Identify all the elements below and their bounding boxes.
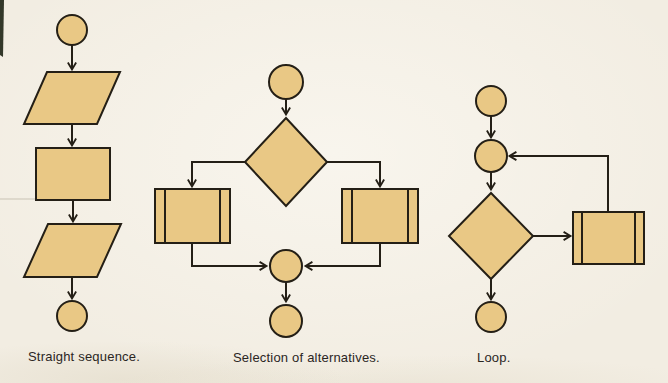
predefined-process-box	[573, 212, 644, 264]
terminal-circle-start	[476, 86, 506, 116]
predefined-process-box-right	[342, 189, 418, 243]
merge-arrow-left	[192, 243, 266, 266]
figure-caption: Straight sequence.	[28, 349, 140, 364]
flowchart-selection-of-alternatives: Selection of alternatives.	[155, 65, 418, 365]
scanned-figure-page: Straight sequence.	[0, 0, 668, 383]
decision-diamond	[449, 193, 533, 279]
predefined-process-rect	[573, 212, 644, 264]
input-output-parallelogram	[24, 224, 121, 277]
decision-diamond	[245, 118, 327, 206]
predefined-process-box-left	[155, 189, 230, 243]
branch-arrow-left	[192, 162, 245, 186]
loop-connector-circle	[475, 140, 507, 172]
predefined-process-rect	[155, 189, 230, 243]
flowchart-structures-diagram: Straight sequence.	[0, 0, 668, 383]
terminal-circle-end	[476, 302, 506, 332]
flowchart-loop: Loop.	[449, 86, 644, 365]
terminal-circle-end	[270, 305, 302, 337]
figure-caption: Loop.	[477, 350, 511, 365]
figure-caption: Selection of alternatives.	[233, 350, 380, 365]
branch-arrow-right	[327, 162, 380, 186]
input-output-parallelogram	[24, 72, 120, 124]
flowchart-straight-sequence: Straight sequence.	[24, 15, 140, 364]
terminal-circle-end	[57, 301, 87, 331]
merge-arrow-right	[306, 243, 380, 266]
page-left-edge-scan-artifact	[0, 0, 4, 57]
predefined-process-rect	[342, 189, 418, 243]
terminal-circle-start	[57, 15, 87, 45]
merge-connector-circle	[270, 250, 302, 282]
terminal-circle-start	[269, 65, 303, 99]
process-rectangle	[36, 148, 110, 200]
loopback-arrow	[510, 156, 608, 212]
